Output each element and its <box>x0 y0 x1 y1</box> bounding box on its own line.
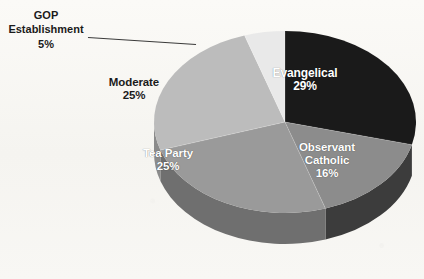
gop-label-line-1: GOP <box>0 8 92 22</box>
label-gop-establishment: GOP Establishment 5% <box>0 8 92 51</box>
label-moderate: Moderate 25% <box>80 76 188 102</box>
moderate-label-value: 25% <box>80 89 188 102</box>
label-evangelical: Evangelical 29% <box>250 67 360 94</box>
gop-label-value: 5% <box>0 37 92 51</box>
teaparty-label-value: 25% <box>114 160 222 173</box>
observant-label-value: 16% <box>274 167 380 180</box>
evangelical-label-value: 29% <box>250 80 360 93</box>
observant-label-line-1: Observant <box>274 141 380 154</box>
teaparty-label-name: Tea Party <box>114 147 222 160</box>
observant-label-line-2: Catholic <box>274 154 380 167</box>
gop-establishment-leader-line <box>88 38 196 45</box>
moderate-label-name: Moderate <box>80 76 188 89</box>
pie-chart-screenshot: GOP Establishment 5% Evangelical 29% Obs… <box>0 0 424 279</box>
evangelical-label-name: Evangelical <box>250 67 360 80</box>
gop-label-line-2: Establishment <box>0 22 92 36</box>
label-tea-party: Tea Party 25% <box>114 147 222 173</box>
label-observant-catholic: Observant Catholic 16% <box>274 141 380 180</box>
